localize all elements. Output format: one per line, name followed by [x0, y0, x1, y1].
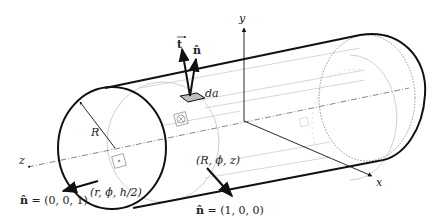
radius-label: R	[90, 126, 99, 139]
end-normal-label: n̂ = (0, 0, 1)	[20, 194, 88, 207]
lateral-point-label: (R, ϕ, z)	[196, 154, 240, 167]
x-axis-label: x	[376, 176, 383, 189]
lateral-normal-symbol: n̂	[196, 204, 204, 217]
radius-line	[80, 102, 115, 148]
area-element-patch	[180, 93, 205, 102]
area-element-label: da	[205, 87, 219, 100]
back-faint-markers	[299, 69, 360, 160]
front-center-marker	[112, 154, 127, 169]
end-point-label: (r, ϕ, h/2)	[90, 186, 142, 199]
normal-label: n̂	[193, 44, 201, 57]
y-axis-label: y	[238, 12, 246, 25]
lateral-normal-label: n̂ = (1, 0, 0)	[196, 204, 264, 217]
normal-arrow	[190, 59, 196, 96]
inner-section-circle	[107, 82, 219, 202]
z-axis-label: z	[18, 154, 25, 167]
cylinder-bottom-edge	[133, 161, 378, 208]
x-axis	[244, 121, 372, 176]
end-normal-value: = (0, 0, 1)	[28, 194, 88, 207]
cylinder-back-cap	[360, 34, 425, 161]
back-dotted-circle	[319, 35, 415, 161]
lateral-cross-marker	[174, 112, 189, 127]
cylinder-top-edge	[105, 35, 360, 88]
end-normal-symbol: n̂	[20, 194, 28, 207]
cylinder-diagram: y x z R da t n̂ (R, ϕ, z) (r, ϕ, h/2) n̂…	[0, 0, 443, 224]
lateral-normal-value: = (1, 0, 0)	[204, 204, 264, 217]
diagram-canvas: y x z R da t n̂ (R, ϕ, z) (r, ϕ, h/2) n̂…	[0, 0, 443, 224]
